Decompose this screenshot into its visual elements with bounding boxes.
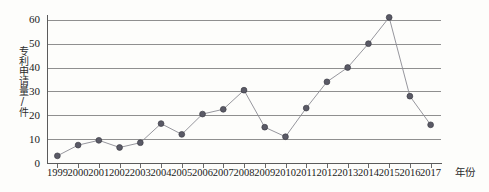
x-tick-label-2015: 2015 [379, 167, 400, 178]
data-point-2015 [386, 14, 392, 20]
data-point-2001 [96, 137, 102, 143]
data-point-2009 [262, 124, 268, 130]
y-tick-label-50: 50 [16, 38, 40, 49]
x-tick-label-2004: 2004 [151, 167, 172, 178]
x-tick-label-2000: 2000 [68, 167, 89, 178]
x-tick-label-2013: 2013 [337, 167, 358, 178]
data-point-2014 [366, 41, 372, 47]
data-point-1999 [54, 153, 60, 159]
data-point-2012 [324, 79, 330, 85]
data-point-2017 [428, 122, 434, 128]
data-point-2003 [137, 140, 143, 146]
y-axis-title: 专利申请量/件 [14, 46, 28, 117]
y-tick-label-60: 60 [16, 14, 40, 25]
x-tick-label-2003: 2003 [130, 167, 151, 178]
x-tick-label-2005: 2005 [171, 167, 192, 178]
data-point-2004 [158, 121, 164, 127]
x-axis-title: 年份 [455, 167, 475, 178]
data-point-2010 [283, 134, 289, 140]
chart-figure: 专利申请量/件 0102030405060 199920002001200220… [0, 0, 489, 192]
data-point-2006 [200, 111, 206, 117]
x-tick-label-2009: 2009 [254, 167, 275, 178]
y-tick-label-20: 20 [16, 110, 40, 121]
x-tick-label-1999: 1999 [47, 167, 68, 178]
x-tick-label-2012: 2012 [316, 167, 337, 178]
data-point-2007 [220, 106, 226, 112]
data-point-2013 [345, 65, 351, 71]
x-tick-label-2014: 2014 [358, 167, 379, 178]
data-point-2000 [75, 142, 81, 148]
data-line [57, 17, 430, 155]
x-tick-label-2011: 2011 [296, 167, 317, 178]
data-point-2016 [407, 93, 413, 99]
x-tick-label-2017: 2017 [420, 167, 441, 178]
x-tick-label-2001: 2001 [88, 167, 109, 178]
x-tick-label-2008: 2008 [234, 167, 255, 178]
y-tick-label-0: 0 [16, 158, 40, 169]
plot-area [47, 15, 441, 163]
data-point-2002 [117, 145, 123, 151]
data-point-2011 [303, 105, 309, 111]
x-tick-label-2002: 2002 [109, 167, 130, 178]
data-point-2008 [241, 87, 247, 93]
y-tick-label-30: 30 [16, 86, 40, 97]
x-tick-label-2006: 2006 [192, 167, 213, 178]
data-point-2005 [179, 131, 185, 137]
x-tick-label-2007: 2007 [213, 167, 234, 178]
x-tick-label-2010: 2010 [275, 167, 296, 178]
x-tick-label-2016: 2016 [399, 167, 420, 178]
y-tick-label-10: 10 [16, 134, 40, 145]
y-tick-label-40: 40 [16, 62, 40, 73]
series-line-patent-applications [47, 15, 441, 164]
